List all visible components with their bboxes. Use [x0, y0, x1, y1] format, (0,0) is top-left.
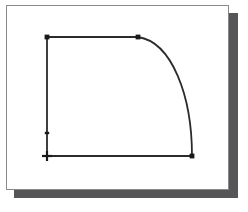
- figure-screenshot: [0, 0, 248, 212]
- figure-panel: [6, 5, 229, 190]
